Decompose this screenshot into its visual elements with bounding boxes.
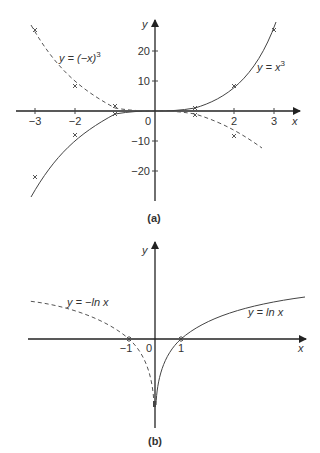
- tick-label: 10: [138, 75, 150, 87]
- curve-neg-ln-x: [28, 301, 154, 405]
- curve-label-ln-x: y = ln x: [247, 306, 284, 318]
- curve-label-x-cubed: y = x3: [256, 59, 286, 73]
- panel-label-b: (b): [148, 435, 162, 447]
- x-axis-label: x: [291, 115, 298, 127]
- figure: −3 −2 0 2 3 x 20 10 −10 −20 y: [0, 0, 320, 453]
- tick-label: −3: [29, 115, 42, 127]
- panel-label-a: (a): [147, 212, 161, 224]
- y-axis-label: y: [141, 18, 149, 30]
- tick-label: −2: [69, 115, 82, 127]
- origin-label: 0: [145, 115, 151, 127]
- curve-label-neg-x-cubed: y = (−x)3: [58, 50, 101, 64]
- tick-label: −1: [120, 342, 133, 354]
- tick-label: 2: [231, 115, 237, 127]
- x-axis-label: x: [297, 342, 304, 354]
- panel-b: −1 0 1 x y y = −ln x y = ln x (b): [28, 242, 306, 447]
- curve-label-neg-ln-x: y = −ln x: [66, 296, 109, 308]
- tick-label: −10: [131, 135, 150, 147]
- tick-label: 3: [271, 115, 277, 127]
- panel-a: −3 −2 0 2 3 x 20 10 −10 −20 y: [16, 18, 300, 224]
- asymptote-mark: [153, 401, 156, 407]
- y-axis-label: y: [141, 244, 149, 256]
- tick-label: 20: [138, 45, 150, 57]
- origin-label: 0: [146, 342, 152, 354]
- tick-label: −20: [131, 165, 150, 177]
- tick-label: 1: [178, 342, 184, 354]
